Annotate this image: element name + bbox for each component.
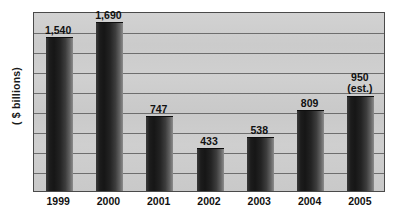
value-label-2000: 1,690 <box>95 10 121 21</box>
y-axis-title: ( $ billions) <box>0 0 33 192</box>
value-label-2004: 809 <box>301 98 319 109</box>
x-axis-label-2004: 2004 <box>298 195 321 207</box>
value-label-text: 747 <box>150 103 168 115</box>
y-axis-title-label: ( $ billions) <box>11 67 23 125</box>
gridline <box>34 53 384 54</box>
value-label-2002: 433 <box>200 136 218 147</box>
value-label-2003: 538 <box>251 125 269 136</box>
plot-area <box>33 12 385 192</box>
x-axis-label-2000: 2000 <box>97 195 120 207</box>
value-label-2001: 747 <box>150 104 168 115</box>
x-axis-label-2003: 2003 <box>248 195 271 207</box>
gridline <box>34 33 384 34</box>
bar-2004 <box>297 110 324 191</box>
bar-2005 <box>347 96 374 191</box>
value-label-text: 433 <box>200 135 218 147</box>
gridline <box>34 113 384 114</box>
bar-2000 <box>96 22 123 191</box>
value-label-annotation: (est.) <box>347 83 372 94</box>
gridline <box>34 93 384 94</box>
x-axis-label-1999: 1999 <box>46 195 69 207</box>
bar-chart: ( $ billions) 1,5401,690747433538809950(… <box>0 0 406 219</box>
x-axis-labels: 1999200020012002200320042005 <box>33 195 385 215</box>
value-label-text: 538 <box>251 124 269 136</box>
value-label-1999: 1,540 <box>45 25 71 36</box>
x-axis-label-2005: 2005 <box>348 195 371 207</box>
value-label-text: 1,540 <box>45 24 71 36</box>
value-label-text: 1,690 <box>95 9 121 21</box>
x-axis-label-2001: 2001 <box>147 195 170 207</box>
x-axis-label-2002: 2002 <box>197 195 220 207</box>
bar-2002 <box>197 148 224 191</box>
bar-1999 <box>46 37 73 191</box>
bar-2003 <box>247 137 274 191</box>
value-label-2005: 950(est.) <box>347 72 372 94</box>
value-label-text: 809 <box>301 97 319 109</box>
bar-2001 <box>146 116 173 191</box>
gridline <box>34 73 384 74</box>
